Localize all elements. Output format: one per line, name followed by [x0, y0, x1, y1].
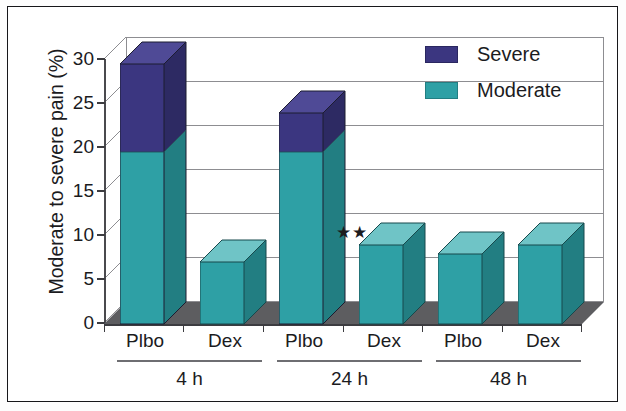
x-label-dex-24h: Dex: [344, 330, 424, 352]
y-tick-25: [97, 102, 105, 104]
y-tick-30: [97, 58, 105, 60]
legend-swatch-moderate-icon: [425, 82, 458, 99]
x-label-plbo-48h: Plbo: [423, 330, 503, 352]
y-tick-label-10: 10: [4, 225, 94, 244]
significance-annotation: ★★: [336, 222, 368, 243]
bar-plbo-4h: [120, 30, 210, 330]
group-label-24h: 24 h: [277, 368, 422, 390]
legend-swatch-severe-icon: [425, 46, 458, 63]
y-tick-label-15: 15: [4, 181, 94, 200]
legend-label-moderate: Moderate: [477, 79, 562, 102]
x-label-dex-48h: Dex: [503, 330, 583, 352]
group-rule-24h: [277, 360, 422, 362]
group-rule-48h: [436, 360, 581, 362]
bar-dex-4h: [200, 30, 290, 330]
group-rule-4h: [117, 360, 262, 362]
legend-label-severe: Severe: [477, 43, 540, 66]
y-tick-label-20: 20: [4, 137, 94, 156]
group-label-4h: 4 h: [117, 368, 262, 390]
y-tick-label-0: 0: [4, 313, 94, 332]
y-tick-5: [97, 278, 105, 280]
group-label-48h: 48 h: [436, 368, 581, 390]
x-label-dex-4h: Dex: [185, 330, 265, 352]
legend-item-severe: Severe: [425, 36, 562, 72]
y-tick-label-25: 25: [4, 93, 94, 112]
x-label-plbo-4h: Plbo: [105, 330, 185, 352]
chart-legend: Severe Moderate: [425, 36, 562, 108]
y-tick-20: [97, 146, 105, 148]
y-tick-label-5: 5: [4, 269, 94, 288]
bar-plbo-24h: [279, 30, 369, 330]
y-tick-10: [97, 234, 105, 236]
y-tick-label-30: 30: [4, 49, 94, 68]
y-tick-15: [97, 190, 105, 192]
chart-figure: Moderate to severe pain (%): [0, 0, 626, 411]
x-label-plbo-24h: Plbo: [264, 330, 344, 352]
y-axis-line: [104, 59, 106, 325]
legend-item-moderate: Moderate: [425, 72, 562, 108]
